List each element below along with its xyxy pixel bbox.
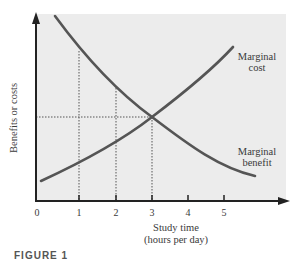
marginal-benefit-label: Marginal benefit [234, 146, 280, 168]
x-tick-label-4: 4 [182, 207, 194, 218]
marginal-cost-label-line2: cost [234, 62, 280, 73]
marginal-cost-label-line1: Marginal [234, 51, 280, 62]
x-axis-label-line1: Study time [130, 222, 222, 234]
figure-caption: FIGURE 1 [14, 250, 68, 261]
x-tick-label-2: 2 [110, 207, 122, 218]
x-tick-label-5: 5 [218, 207, 230, 218]
x-tick-label-1: 1 [73, 207, 85, 218]
x-axis-label: Study time (hours per day) [130, 222, 222, 246]
x-axis-label-line2: (hours per day) [130, 234, 222, 246]
marginal-benefit-label-line1: Marginal [234, 146, 280, 157]
marginal-benefit-label-line2: benefit [234, 157, 280, 168]
x-tick-label-0: 0 [31, 207, 43, 218]
y-axis-label: Benefits or costs [6, 58, 20, 178]
y-axis-label-text: Benefits or costs [8, 83, 19, 153]
x-tick-label-3: 3 [146, 207, 158, 218]
marginal-cost-label: Marginal cost [234, 51, 280, 73]
